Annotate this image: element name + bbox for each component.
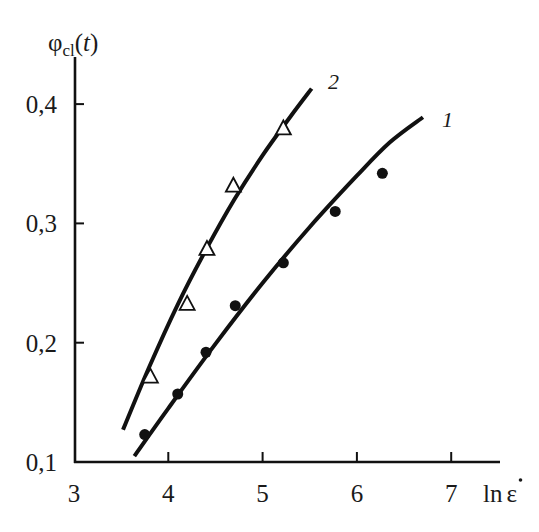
x-ticks: 34567 xyxy=(68,452,458,507)
y-axis-title-paren-open: ( xyxy=(75,29,83,57)
data-point-series-1 xyxy=(278,257,289,268)
curve-label-1: 1 xyxy=(442,107,453,132)
y-axis-title-symbol: φ xyxy=(48,29,62,56)
x-axis-title-ln: ln xyxy=(483,480,503,507)
data-point-series-1 xyxy=(201,347,212,358)
x-axis-title: lnε xyxy=(483,478,522,507)
y-tick-label: 0,3 xyxy=(26,210,57,237)
data-point-series-1 xyxy=(377,168,388,179)
y-tick-label: 0,4 xyxy=(26,91,58,118)
y-axis-title-paren-close: ) xyxy=(90,29,98,57)
x-axis-title-symbol: ε xyxy=(506,480,517,507)
data-point-series-1 xyxy=(230,300,241,311)
data-point-series-1 xyxy=(139,429,150,440)
data-point-series-2 xyxy=(276,120,291,134)
x-tick-label: 5 xyxy=(256,480,269,507)
data-point-series-1 xyxy=(172,388,183,399)
y-tick-label: 0,2 xyxy=(26,330,57,357)
data-point-series-1 xyxy=(330,206,341,217)
y-axis-title-subscript: cl xyxy=(62,41,75,60)
data-point-series-2 xyxy=(226,178,241,192)
data-point-series-2 xyxy=(199,241,214,255)
chart: 34567 0,10,20,30,4 φcl(t) lnε 1 2 xyxy=(0,0,539,532)
y-tick-label: 0,1 xyxy=(26,449,57,476)
svg-text:lnε: lnε xyxy=(483,480,517,507)
x-tick-label: 6 xyxy=(351,480,364,507)
fit-curves xyxy=(123,89,423,456)
y-axis-title: φcl(t) xyxy=(48,29,98,60)
curve-label-2: 2 xyxy=(328,69,339,94)
fit-curve-1 xyxy=(134,117,423,456)
caption-fragment xyxy=(10,522,530,532)
x-tick-label: 4 xyxy=(162,480,175,507)
x-axis-title-dot xyxy=(519,478,523,482)
x-tick-label: 3 xyxy=(68,480,81,507)
x-tick-label: 7 xyxy=(445,480,458,507)
